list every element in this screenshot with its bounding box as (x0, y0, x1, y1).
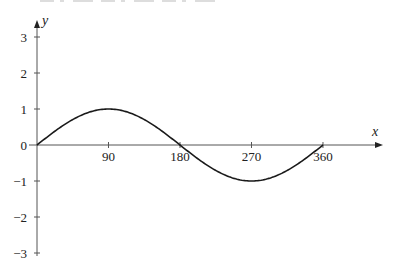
y-axis-arrow-icon (34, 20, 40, 28)
y-tick-label: 2 (21, 66, 28, 81)
sine-graph: 901802703603210−1−2−3 x y (0, 0, 393, 276)
x-tick-label: 90 (102, 149, 115, 164)
y-tick-label: 1 (21, 102, 28, 117)
y-tick-label: 3 (21, 30, 28, 45)
y-tick-label: −2 (13, 210, 27, 225)
x-axis-arrow-icon (375, 142, 383, 148)
y-axis-label: y (40, 13, 49, 28)
x-axis-label: x (371, 124, 379, 139)
y-tick-label: 0 (21, 138, 28, 153)
x-tick-label: 270 (242, 149, 262, 164)
y-tick-label: −3 (13, 246, 27, 261)
y-tick-label: −1 (13, 174, 27, 189)
axes (29, 20, 383, 256)
